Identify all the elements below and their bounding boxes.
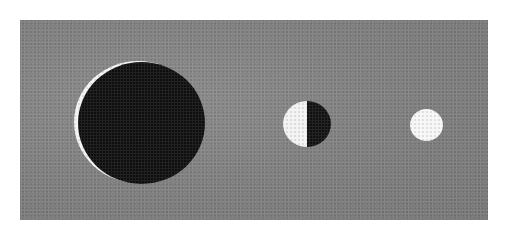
large-black-disc [78,62,205,184]
medium-half-white-half-black-disc [283,101,331,147]
small-white-disc [410,109,443,141]
large-disc-highlight-rim [74,61,202,183]
grey-background-panel [20,20,488,220]
